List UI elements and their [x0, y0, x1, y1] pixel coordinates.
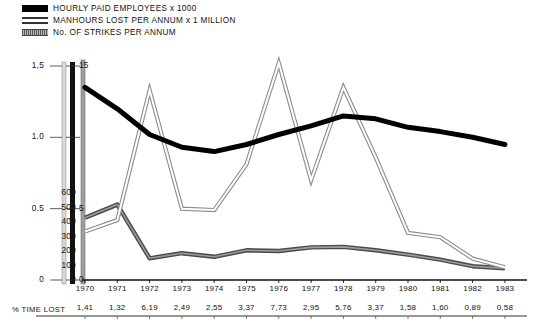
axis-label-third-0: 0 [52, 275, 76, 284]
axis-label-third-2: 200 [52, 246, 76, 255]
chart-root: HOURLY PAID EMPLOYEES x 1000 MANHOURS LO… [0, 0, 535, 327]
pct-time-lost-title: % TIME LOST [12, 305, 65, 314]
pct-time-lost-value-1981: 1,60 [423, 303, 457, 312]
axis-label-middle-2: 15 [79, 61, 95, 70]
pct-time-lost-value-1978: 5,76 [326, 303, 360, 312]
x-axis-year-label-1980: 1980 [391, 284, 425, 293]
axis-label-left-1: 0.5 [18, 204, 44, 213]
x-axis-year-label-1983: 1983 [488, 284, 522, 293]
chart-axis-layer [36, 60, 527, 319]
x-axis-year-label-1970: 1970 [68, 284, 102, 293]
axis-label-left-3: 1,5 [18, 61, 44, 70]
pct-time-lost-value-1980: 1,58 [391, 303, 425, 312]
axis-label-third-3: 300 [52, 232, 76, 241]
x-axis-year-label-1981: 1981 [423, 284, 457, 293]
pct-time-lost-value-1973: 2,49 [165, 303, 199, 312]
axis-label-third-4: 400 [52, 217, 76, 226]
pct-time-lost-value-1979: 3,37 [359, 303, 393, 312]
x-axis-year-label-1978: 1978 [326, 284, 360, 293]
axis-label-third-5: 500 [52, 203, 76, 212]
chart-series-layer [85, 63, 505, 268]
pct-time-lost-value-1982: 0,89 [456, 303, 490, 312]
pct-time-lost-value-1976: 7,73 [262, 303, 296, 312]
pct-time-lost-value-1974: 2,55 [197, 303, 231, 312]
pct-time-lost-value-1972: 6,19 [133, 303, 167, 312]
axis-label-middle-1: 5 [79, 204, 95, 213]
x-axis-year-label-1973: 1973 [165, 284, 199, 293]
axis-label-third-1: 100 [52, 261, 76, 270]
x-axis-year-label-1979: 1979 [359, 284, 393, 293]
pct-time-lost-value-1970: 1,41 [68, 303, 102, 312]
x-axis-year-label-1976: 1976 [262, 284, 296, 293]
x-axis-year-label-1975: 1975 [230, 284, 264, 293]
x-axis-year-label-1971: 1971 [100, 284, 134, 293]
axis-label-left-2: 1.0 [18, 132, 44, 141]
pct-time-lost-value-1975: 3,37 [230, 303, 264, 312]
pct-time-lost-value-1977: 2,95 [294, 303, 328, 312]
x-axis-year-label-1974: 1974 [197, 284, 231, 293]
x-axis-year-label-1972: 1972 [133, 284, 167, 293]
axis-label-third-6: 600 [52, 188, 76, 197]
x-axis-year-label-1977: 1977 [294, 284, 328, 293]
x-axis-year-label-1982: 1982 [456, 284, 490, 293]
axis-label-middle-0: 0 [79, 275, 95, 284]
pct-time-lost-value-1971: 1,32 [100, 303, 134, 312]
pct-time-lost-value-1983: 0,58 [488, 303, 522, 312]
series-hollow-outline [85, 63, 505, 267]
axis-label-left-0: 0 [18, 275, 44, 284]
